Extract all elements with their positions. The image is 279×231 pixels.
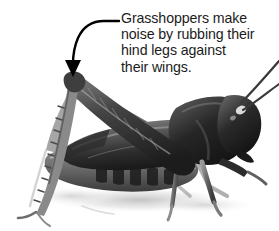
grasshopper-figure: Grasshoppers make noise by rubbing their…: [0, 0, 279, 231]
callout-line-1: Grasshoppers make: [121, 10, 277, 26]
callout-line-2: noise by rubbing their: [121, 26, 277, 42]
callout-line-4: their wings.: [121, 59, 277, 75]
callout-line-3: hind legs against: [121, 42, 277, 58]
callout-text-block: Grasshoppers make noise by rubbing their…: [121, 10, 277, 75]
